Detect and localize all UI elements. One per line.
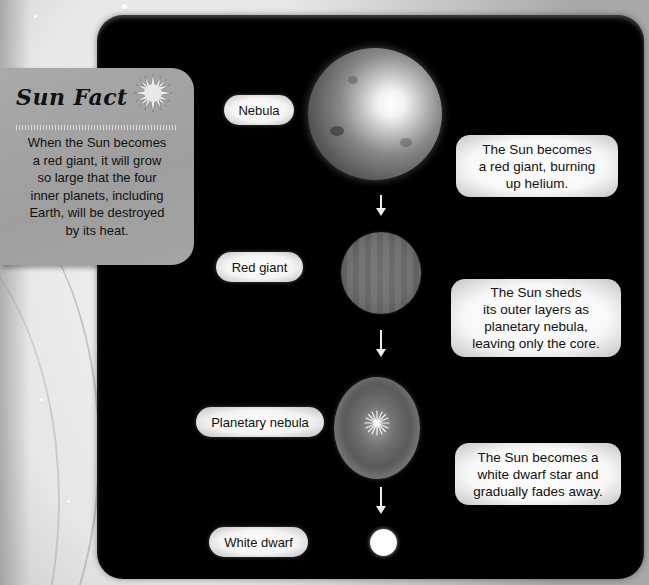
sun-fact-title: Sun Fact (16, 84, 128, 110)
background-star (67, 500, 70, 503)
sun-icon (133, 73, 173, 113)
stage-label-red-giant: Red giant (216, 252, 303, 282)
arrow-down-icon (376, 330, 386, 358)
sun-fact-text: When the Sun becomes a red giant, it wil… (8, 134, 186, 239)
sun-fact-box: Sun Fact When the Sun becomes a red gian… (0, 68, 194, 265)
red-giant-image (341, 232, 421, 314)
stage-label-nebula: Nebula (224, 95, 294, 125)
stage-label-white-dwarf: White dwarf (209, 527, 308, 557)
arrow-down-icon (376, 195, 386, 217)
background-star (40, 398, 43, 401)
white-dwarf-image (370, 529, 397, 556)
nebula-image (308, 48, 442, 180)
arrow-down-icon (376, 487, 386, 515)
background-star (122, 4, 127, 9)
stage-label-planetary-nebula: Planetary nebula (196, 407, 324, 437)
star-burst-icon (364, 410, 390, 436)
description-planetary-nebula: The Sun sheds its outer layers as planet… (451, 279, 621, 357)
description-red-giant: The Sun becomes a red giant, burning up … (456, 135, 618, 197)
description-white-dwarf: The Sun becomes a white dwarf star and g… (455, 443, 621, 505)
divider (16, 125, 176, 130)
background-star (34, 15, 37, 18)
